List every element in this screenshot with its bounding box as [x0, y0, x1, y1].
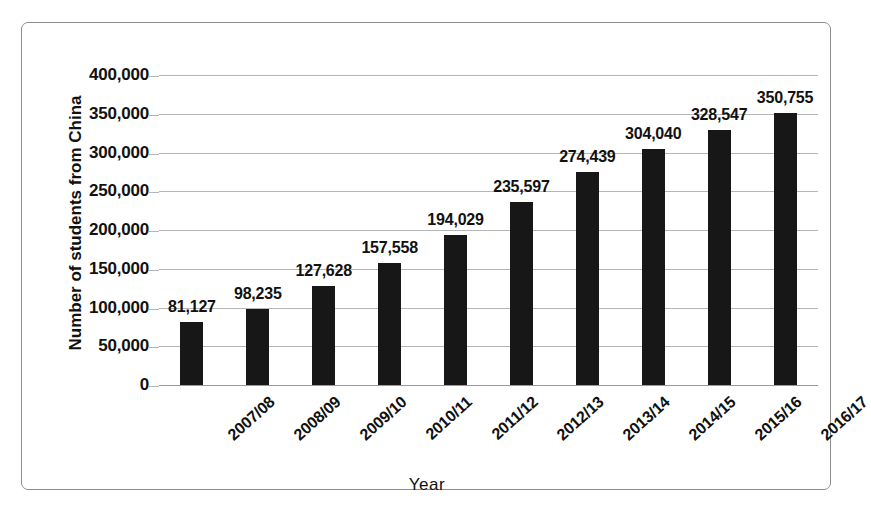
bar-value-label: 98,235 [234, 285, 282, 303]
x-axis-tick-labels: 2007/082008/092009/102010/112011/122012/… [159, 385, 818, 480]
bar-value-label: 81,127 [168, 298, 216, 316]
y-axis-tick-label: 350,000 [89, 104, 149, 124]
bar[interactable] [246, 309, 269, 385]
bar-value-label: 328,547 [691, 106, 747, 124]
x-axis-tick-label: 2008/09 [290, 393, 344, 444]
y-axis-tick-label: 50,000 [98, 336, 149, 356]
x-axis-tick-label: 2013/14 [620, 393, 674, 444]
bar[interactable] [444, 235, 467, 385]
bar-value-label: 157,558 [361, 239, 417, 257]
y-axis-tick-label: 150,000 [89, 259, 149, 279]
y-axis-tick-mark [149, 386, 159, 387]
gridline [159, 75, 818, 76]
x-axis-tick-label: 2012/13 [554, 393, 608, 444]
y-axis-tick-mark [149, 154, 159, 155]
x-axis-tick-label: 2011/12 [488, 393, 541, 444]
x-axis-tick-label: 2010/11 [422, 393, 475, 444]
bar[interactable] [378, 263, 401, 385]
y-axis-tick-mark [149, 76, 159, 77]
y-axis-tick-label: 100,000 [89, 298, 149, 318]
y-axis-tick-mark [149, 192, 159, 193]
bar-value-label: 127,628 [296, 262, 352, 280]
bar[interactable] [774, 113, 797, 385]
x-axis-tick-label: 2009/10 [356, 393, 410, 444]
bar[interactable] [642, 149, 665, 385]
bar[interactable] [708, 130, 731, 385]
bar-value-label: 350,755 [757, 89, 813, 107]
chart-frame: Number of students from China 050,000100… [21, 22, 831, 490]
y-axis-tick-label: 250,000 [89, 181, 149, 201]
plot-area: 81,12798,235127,628157,558194,029235,597… [159, 75, 818, 385]
bar[interactable] [180, 322, 203, 385]
x-axis-tick-label: 2016/17 [818, 393, 871, 444]
y-axis-tick-mark [149, 309, 159, 310]
bar-value-label: 235,597 [493, 178, 549, 196]
bar[interactable] [510, 202, 533, 385]
bar[interactable] [312, 286, 335, 385]
y-axis-tick-mark [149, 270, 159, 271]
x-axis-title: Year [22, 475, 832, 495]
bar-value-label: 274,439 [559, 148, 615, 166]
bar-value-label: 304,040 [625, 125, 681, 143]
y-axis-tick-label: 200,000 [89, 220, 149, 240]
x-axis-tick-label: 2015/16 [752, 393, 806, 444]
bar[interactable] [576, 172, 599, 385]
y-axis-tick-labels: 050,000100,000150,000200,000250,000300,0… [22, 75, 149, 385]
y-axis-tick-mark [149, 347, 159, 348]
x-axis-tick-label: 2007/08 [224, 393, 278, 444]
bar-value-label: 194,029 [427, 211, 483, 229]
y-axis-tick-mark [149, 231, 159, 232]
y-axis-tick-mark [149, 115, 159, 116]
y-axis-tick-label: 300,000 [89, 143, 149, 163]
x-axis-tick-label: 2014/15 [686, 393, 740, 444]
y-axis-tick-label: 0 [140, 375, 149, 395]
y-axis-tick-label: 400,000 [89, 65, 149, 85]
